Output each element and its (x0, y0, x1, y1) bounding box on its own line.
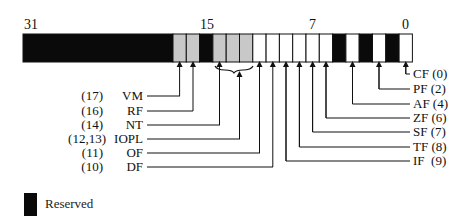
bit-15-reserved (200, 34, 213, 62)
legend-reserved-label: Reserved (45, 196, 93, 212)
flag-num-vm: (17) (81, 88, 103, 103)
legend-reserved-swatch (24, 193, 37, 216)
iopl-brace (215, 66, 253, 73)
bit-10-df (266, 34, 279, 62)
bit-3-reserved (359, 34, 372, 62)
flag-label-pf: PF (2) (413, 81, 446, 96)
left-flag-labels: (17) VM (16) RF (14) NT (12,13) IOPL (11… (68, 88, 143, 174)
flag-num-iopl: (12,13) (68, 131, 106, 146)
bit-marker-15: 15 (200, 17, 214, 32)
flag-label-if: IF (9) (413, 153, 446, 168)
flag-num-df: (10) (81, 159, 103, 174)
bit-4-af (346, 34, 359, 62)
flag-name-vm: VM (122, 88, 143, 103)
bit-13-iopl (226, 34, 239, 62)
bit-12-iopl (240, 34, 253, 62)
flag-name-df: DF (126, 159, 143, 174)
bit-1-reserved (386, 34, 399, 62)
bit-14-nt (213, 34, 226, 62)
bit-11-of (253, 34, 266, 62)
left-leaders (147, 64, 273, 167)
bit-marker-31: 31 (24, 17, 38, 32)
flag-label-cf: CF (0) (413, 66, 447, 81)
bit-2-pf (373, 34, 386, 62)
bit-0-cf (399, 34, 412, 62)
flag-name-nt: NT (126, 117, 143, 132)
right-leaders (286, 64, 410, 161)
bit-7-sf (306, 34, 319, 62)
bit-6-zf (319, 34, 332, 62)
bit-8-tf (293, 34, 306, 62)
flag-num-of: (11) (82, 145, 103, 160)
flag-name-iopl: IOPL (114, 131, 143, 146)
flag-label-tf: TF (8) (413, 139, 447, 154)
right-flag-labels: CF (0) PF (2) AF (4) ZF (6) SF (7) TF (8… (413, 66, 448, 168)
register-bar (23, 34, 412, 62)
flag-name-rf: RF (127, 103, 143, 118)
bit-marker-7: 7 (309, 17, 316, 32)
flag-label-zf: ZF (6) (413, 110, 447, 125)
bit-9-if (279, 34, 292, 62)
reserved-bits-31-18 (23, 34, 173, 62)
bit-16-rf (186, 34, 199, 62)
flag-num-nt: (14) (81, 117, 103, 132)
flag-label-af: AF (4) (413, 96, 448, 111)
flag-name-of: OF (126, 145, 143, 160)
flag-num-rf: (16) (81, 103, 103, 118)
bit-5-reserved (333, 34, 346, 62)
flag-label-sf: SF (7) (413, 124, 446, 139)
bit-17-vm (173, 34, 186, 62)
eflags-diagram: 31 15 7 0 (0, 0, 465, 222)
bit-marker-0: 0 (402, 17, 409, 32)
